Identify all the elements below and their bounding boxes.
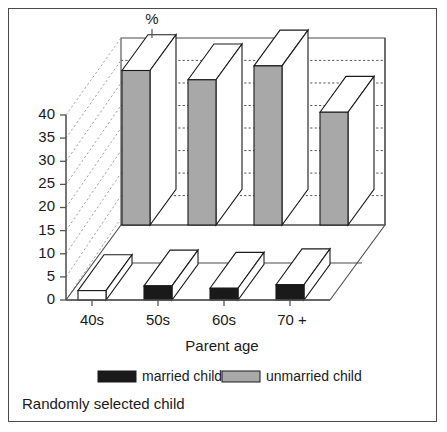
unit-label-group: % — [145, 10, 158, 38]
chart-legend: married child unmarried child — [98, 368, 362, 384]
chart-figure: 40 35 30 25 20 15 10 5 0 % 40s 50s 60s 7… — [0, 0, 447, 432]
x-tick-label-40s: 40s — [80, 311, 104, 328]
legend-swatch-married — [98, 371, 136, 382]
x-axis: 40s 50s 60s 70 + Parent age — [66, 300, 330, 354]
x-tick-label-70plus: 70 + — [277, 311, 307, 328]
series-married-child — [78, 249, 330, 300]
y-tick-label-40: 40 — [38, 105, 55, 122]
y-axis: 40 35 30 25 20 15 10 5 0 — [38, 105, 66, 307]
x-tick-label-50s: 50s — [146, 311, 170, 328]
percent-unit-label: % — [145, 10, 158, 27]
y-tick-label-35: 35 — [38, 128, 55, 145]
bar-unmarried-70plus[interactable] — [320, 76, 374, 225]
bar-married-60s[interactable] — [210, 252, 264, 300]
legend-swatch-unmarried — [222, 371, 260, 382]
legend-label-unmarried: unmarried child — [266, 368, 362, 384]
bar-unmarried-50s[interactable] — [188, 44, 242, 225]
bar-married-70plus[interactable] — [276, 249, 330, 300]
x-axis-title: Parent age — [185, 337, 258, 354]
bar-unmarried-40s[interactable] — [122, 35, 176, 225]
legend-item-unmarried[interactable]: unmarried child — [222, 368, 362, 384]
caption-text: Randomly selected child — [22, 395, 185, 412]
y-tick-label-0: 0 — [47, 290, 55, 307]
y-tick-label-25: 25 — [38, 174, 55, 191]
bar-married-40s[interactable] — [78, 255, 132, 300]
series-unmarried-child — [122, 30, 374, 225]
bar-married-50s[interactable] — [144, 250, 198, 300]
legend-label-married: married child — [142, 368, 222, 384]
chart-caption: Randomly selected child — [22, 395, 185, 412]
y-tick-label-30: 30 — [38, 151, 55, 168]
bar-unmarried-60s[interactable] — [254, 30, 308, 225]
y-tick-label-10: 10 — [38, 244, 55, 261]
y-tick-label-5: 5 — [47, 267, 55, 284]
bar-chart-3d: 40 35 30 25 20 15 10 5 0 % 40s 50s 60s 7… — [0, 0, 447, 432]
x-tick-label-60s: 60s — [212, 311, 236, 328]
legend-item-married[interactable]: married child — [98, 368, 222, 384]
y-tick-label-15: 15 — [38, 221, 55, 238]
y-tick-label-20: 20 — [38, 197, 55, 214]
